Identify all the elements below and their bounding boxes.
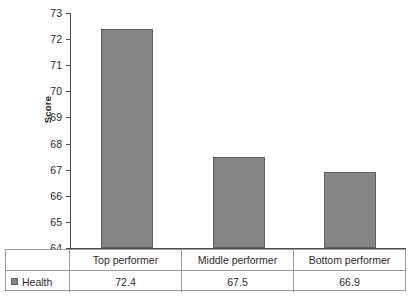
legend-label: Health [22,276,52,288]
plot-area [71,13,406,248]
table-corner-cell [6,250,70,270]
y-axis-tick-label: 65 [40,217,62,228]
legend-entry-health: Health [6,271,70,292]
table-header-cell: Top performer [70,250,182,270]
table-value-cell: 67.5 [182,271,294,292]
y-axis-tick-label: 73 [40,8,62,19]
bar [213,157,265,248]
y-axis-tick-label: 69 [40,112,62,123]
table-row-headers: Top performer Middle performer Bottom pe… [6,250,405,271]
y-axis-tick-label: 66 [40,191,62,202]
y-axis-tick-label: 72 [40,34,62,45]
table-value-cell: 66.9 [294,271,405,292]
y-axis-tick-label: 71 [40,60,62,71]
bar-chart: Score 73727170696867666564 Top performer… [0,0,412,296]
table-row-values: Health 72.4 67.5 66.9 [6,271,405,292]
table-value-cell: 72.4 [70,271,182,292]
table-header-cell: Bottom performer [294,250,405,270]
legend-swatch-icon [11,278,18,285]
bar [101,29,153,248]
y-axis-tick-label: 67 [40,164,62,175]
table-header-cell: Middle performer [182,250,294,270]
data-table: Top performer Middle performer Bottom pe… [5,249,406,291]
bar [324,172,376,248]
y-axis-tick-label: 68 [40,138,62,149]
y-axis-tick-label: 70 [40,86,62,97]
